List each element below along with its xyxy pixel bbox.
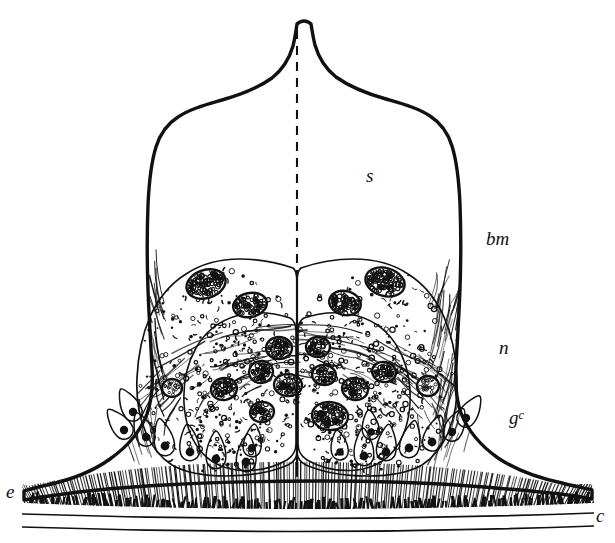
label-e-text: e — [6, 481, 14, 502]
illustration-canvas — [0, 0, 615, 543]
gland-cell-nucleus — [336, 448, 344, 456]
nucleus-cell — [417, 376, 439, 396]
gland-cell-nucleus — [142, 433, 150, 441]
gland-cell-nucleus — [360, 452, 369, 461]
label-n-text: n — [499, 337, 509, 358]
gland-cell-nucleus — [248, 444, 256, 452]
gland-cell-nucleus — [120, 426, 128, 434]
gland-cell-nucleus — [242, 458, 251, 467]
label-gc: gc — [509, 408, 524, 427]
nucleus-cell — [306, 337, 330, 358]
nucleus-cell — [266, 337, 292, 359]
label-s-text: s — [366, 165, 373, 186]
figure-root: sbmngcec — [0, 0, 615, 543]
label-gc-text: g — [509, 407, 519, 428]
gland-cell-nucleus — [367, 428, 375, 436]
label-gc-superscript: c — [519, 408, 525, 422]
gland-cell-nucleus — [129, 408, 137, 416]
label-c: c — [596, 506, 604, 525]
gland-cell-nucleus — [382, 448, 391, 457]
gland-cell-nucleus — [186, 448, 195, 457]
label-bm-text: bm — [486, 228, 509, 249]
label-c-text: c — [596, 505, 604, 526]
canvas-background — [0, 0, 615, 543]
label-bm: bm — [486, 229, 509, 248]
label-n: n — [499, 338, 509, 357]
gland-cell-nucleus — [448, 428, 456, 436]
gland-cell-nucleus — [161, 442, 170, 451]
gland-cell-nucleus — [428, 438, 437, 447]
nucleus-cell — [162, 379, 182, 397]
label-s: s — [366, 166, 373, 185]
gland-cell-nucleus — [212, 455, 221, 464]
gland-cell-nucleus — [405, 444, 414, 453]
label-e: e — [6, 482, 14, 501]
